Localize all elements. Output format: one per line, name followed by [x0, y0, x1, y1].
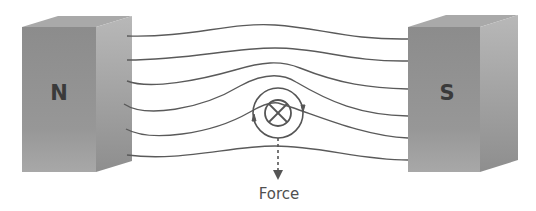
- diagram-canvas: N S Force: [0, 0, 536, 211]
- field-line: [127, 146, 408, 160]
- north-pole-label: N: [50, 81, 68, 105]
- field-line: [127, 25, 408, 39]
- field-line: [127, 48, 408, 61]
- force-label: Force: [259, 185, 300, 203]
- south-magnet-side: [480, 15, 518, 172]
- south-pole-label: S: [439, 81, 454, 105]
- force-arrow-head: [273, 170, 283, 180]
- field-lines: [124, 25, 408, 160]
- north-magnet-side: [96, 16, 132, 172]
- force-arrow: Force: [259, 138, 300, 203]
- north-magnet: N: [22, 16, 132, 172]
- current-wire: [252, 88, 305, 138]
- south-magnet: S: [408, 15, 518, 172]
